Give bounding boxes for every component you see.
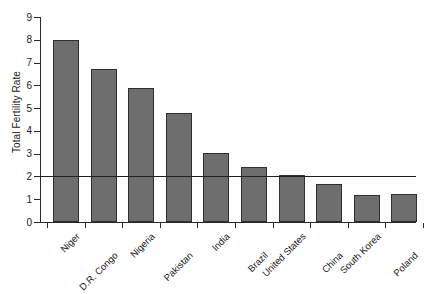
- x-axis-line: [40, 222, 416, 223]
- bar-united-states: [279, 175, 305, 222]
- bar-pakistan: [166, 113, 192, 222]
- y-axis-tick-3: [34, 154, 40, 155]
- y-axis-tick-8: [34, 40, 40, 41]
- x-axis-tick-4: [197, 223, 198, 228]
- bar-south-korea: [354, 195, 380, 222]
- y-axis-tick-4: [34, 131, 40, 132]
- bar-niger: [53, 40, 79, 222]
- x-axis-tick-3: [160, 223, 161, 228]
- y-axis-tick-0: [34, 222, 40, 223]
- bar-d-r-congo: [91, 69, 117, 222]
- x-axis-tick-2: [122, 223, 123, 228]
- y-axis-tick-label-7: 7: [12, 57, 32, 68]
- y-axis-tick-1: [34, 199, 40, 200]
- bar-nigeria: [128, 88, 154, 222]
- y-axis-tick-label-5: 5: [12, 103, 32, 114]
- y-axis-tick-6: [34, 85, 40, 86]
- y-axis-tick-label-6: 6: [12, 80, 32, 91]
- y-axis-tick-label-3: 3: [12, 148, 32, 159]
- x-axis-label-niger: Niger: [0, 231, 82, 294]
- y-axis-tick-9: [34, 17, 40, 18]
- x-axis-tick-0: [47, 223, 48, 228]
- y-axis-tick-5: [34, 108, 40, 109]
- y-axis-tick-7: [34, 63, 40, 64]
- x-axis-tick-6: [273, 223, 274, 228]
- x-axis-tick-5: [235, 223, 236, 228]
- replacement-level-line: [40, 176, 416, 177]
- bar-poland: [391, 194, 417, 222]
- y-axis-tick-label-1: 1: [12, 194, 32, 205]
- x-axis-tick-1: [85, 223, 86, 228]
- y-axis-tick-label-4: 4: [12, 125, 32, 136]
- y-axis-tick-label-9: 9: [12, 12, 32, 23]
- y-axis-tick-label-2: 2: [12, 171, 32, 182]
- x-axis-tick-end: [423, 223, 424, 228]
- y-axis-tick-label-0: 0: [12, 217, 32, 228]
- bar-india: [203, 153, 229, 222]
- x-axis-tick-9: [385, 223, 386, 228]
- bar-chart: Total Fertility Rate 0123456789 NigerD.R…: [0, 0, 436, 294]
- x-axis-tick-7: [310, 223, 311, 228]
- y-axis-line: [40, 17, 41, 223]
- x-axis-tick-8: [348, 223, 349, 228]
- y-axis-tick-label-8: 8: [12, 34, 32, 45]
- bar-china: [316, 184, 342, 222]
